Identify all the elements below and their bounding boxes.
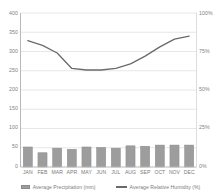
x-label-sep: SEP xyxy=(138,169,153,175)
bar-apr xyxy=(67,149,76,167)
x-label-dec: DEC xyxy=(182,169,197,175)
x-label-aug: AUG xyxy=(123,169,138,175)
precipitation-bars xyxy=(23,145,193,167)
x-label-nov: NOV xyxy=(167,169,182,175)
chart-legend: Average Precipitation (mm) Average Relat… xyxy=(0,180,221,193)
gridlines xyxy=(21,13,197,148)
x-label-may: MAY xyxy=(79,169,94,175)
line-swatch-icon xyxy=(116,186,127,188)
legend-item-humidity: Average Relative Humidity (%) xyxy=(116,184,201,190)
bar-oct xyxy=(155,145,164,167)
legend-item-precipitation: Average Precipitation (mm) xyxy=(21,184,96,190)
x-label-feb: FEB xyxy=(35,169,50,175)
plot-area xyxy=(0,0,221,193)
legend-label-precipitation: Average Precipitation (mm) xyxy=(33,184,96,190)
x-label-jan: JAN xyxy=(21,169,36,175)
x-label-apr: APR xyxy=(65,169,80,175)
humidity-line xyxy=(28,36,189,70)
x-label-oct: OCT xyxy=(153,169,168,175)
bar-swatch-icon xyxy=(21,185,30,189)
bar-aug xyxy=(126,146,135,167)
bar-mar xyxy=(53,148,62,167)
bar-nov xyxy=(170,145,179,167)
bar-jan xyxy=(23,147,32,167)
bar-feb xyxy=(38,153,47,167)
x-label-jun: JUN xyxy=(94,169,109,175)
bar-may xyxy=(82,147,91,167)
legend-label-humidity: Average Relative Humidity (%) xyxy=(130,184,201,190)
bar-dec xyxy=(185,145,194,167)
climate-chart: 400 350 300 250 200 150 100 50 0 100% 75… xyxy=(0,0,221,193)
x-label-jul: JUL xyxy=(109,169,124,175)
bar-jun xyxy=(97,147,106,167)
bar-sep xyxy=(141,146,150,167)
bar-jul xyxy=(111,148,120,167)
x-label-mar: MAR xyxy=(50,169,65,175)
